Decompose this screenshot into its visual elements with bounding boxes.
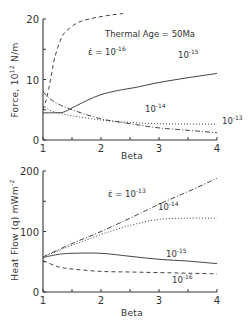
series-label-m13: ε̇ = 10-13	[108, 187, 146, 199]
x-tick-label: 1	[40, 295, 46, 306]
x-tick-label: 2	[98, 143, 104, 154]
y-tick-label: 10	[26, 75, 39, 86]
heatflow-panel: 12340100200 ε̇ = 10-1310-1410-1510-16 Be…	[8, 166, 220, 318]
series-label-m16: 10-16	[172, 273, 193, 285]
series-line-m15	[43, 73, 217, 112]
x-tick-label: 3	[156, 143, 162, 154]
series-line-m14	[43, 218, 217, 257]
y-tick-label: 200	[20, 166, 39, 177]
x-tick-label: 2	[98, 295, 104, 306]
series-line-m13	[43, 92, 217, 133]
force-x-label: Beta	[121, 151, 143, 161]
force-panel: 123401020 ε̇ = 10-1610-1510-1410-13 Ther…	[8, 14, 243, 161]
series-line-m16	[43, 261, 217, 274]
chart: 123401020 ε̇ = 10-1610-1510-1410-13 Ther…	[0, 0, 248, 325]
y-tick-label: 0	[33, 287, 39, 298]
series-label-m13: 10-13	[222, 114, 243, 126]
heatflow-x-label: Beta	[121, 308, 143, 318]
series-label-m15: 10-15	[166, 247, 187, 259]
x-tick-label: 4	[214, 295, 220, 306]
y-tick-label: 0	[33, 135, 39, 146]
x-tick-label: 1	[40, 143, 46, 154]
series-label-m15: 10-15	[178, 48, 199, 60]
x-tick-label: 3	[156, 295, 162, 306]
series-line-m14	[43, 105, 217, 124]
y-tick-label: 100	[20, 227, 39, 238]
series-label-m14: 10-14	[145, 102, 166, 114]
series-label-m16: ε̇ = 10-16	[88, 45, 126, 57]
force-y-label: Force, 1012 N/m	[8, 42, 20, 117]
heatflow-y-label: Heat Flow (q) mWm-2	[8, 179, 20, 280]
x-tick-label: 4	[214, 143, 220, 154]
annotation-thermal-age: Thermal Age = 50Ma	[104, 29, 195, 39]
series-label-m14: 10-14	[158, 200, 179, 212]
series-line-m15	[43, 253, 217, 264]
y-tick-label: 20	[26, 14, 39, 25]
